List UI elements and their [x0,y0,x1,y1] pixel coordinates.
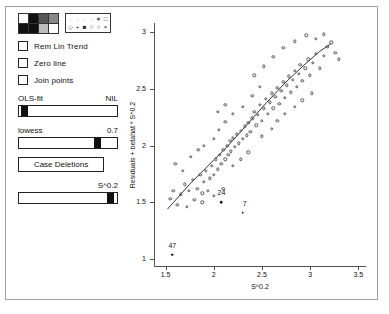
slider-value: NIL [106,94,118,103]
symbol-swatch-5[interactable]: □ [102,15,109,23]
plot-window: ····∗□◇+■○○× Rem Lin TrendZero lineJoin … [5,6,378,300]
case-deletions-button[interactable]: Case Deletions [18,157,104,172]
shade-swatch-0[interactable] [19,14,28,23]
checkbox-join-points[interactable]: Join points [18,75,118,85]
symbol-swatch-7[interactable]: + [74,23,81,31]
slider-2[interactable] [18,192,118,204]
shade-swatch-3[interactable] [49,14,58,23]
slider-value: 0.7 [107,126,118,135]
checkbox-zero-line[interactable]: Zero line [18,58,118,68]
symbol-swatch-6[interactable]: ◇ [67,23,74,31]
slider-0[interactable] [18,105,118,117]
shade-swatch-1[interactable] [29,14,38,23]
slider-1[interactable] [18,137,118,149]
shade-swatch-2[interactable] [39,14,48,23]
y-tick-label: 2.5 [124,85,146,92]
slider-header-0: OLS-fitNIL [18,94,118,103]
x-axis-label: S^0.2 [154,283,366,290]
checkbox-list: Rem Lin TrendZero lineJoin points [18,41,118,85]
control-panel: ····∗□◇+■○○× Rem Lin TrendZero lineJoin … [18,13,118,204]
plot-symbol-palette[interactable]: ····∗□◇+■○○× [65,13,111,33]
scatter-plot: 11.522.53 1.522.533.5 24747 Residuals + … [124,15,372,297]
x-tick-label: 3.5 [346,271,370,278]
x-tick-label: 1.5 [154,271,178,278]
shade-swatch-5[interactable] [29,24,38,33]
y-tick-label: 3 [124,28,146,35]
palette-row: ····∗□◇+■○○× [18,13,118,34]
checkbox-box-icon[interactable] [18,58,28,68]
shade-swatch-7[interactable] [49,24,58,33]
symbol-swatch-1[interactable]: · [74,15,81,23]
checkbox-box-icon[interactable] [18,75,28,85]
slider-thumb[interactable] [94,138,101,148]
symbol-swatch-3[interactable]: · [88,15,95,23]
x-tick-label: 2 [202,271,226,278]
plot-area: 11.522.53 1.522.533.5 24747 Residuals + … [154,23,366,267]
data-point-label-47: 47 [168,241,176,248]
checkbox-label: Zero line [34,59,66,68]
data-point-label-24: 24 [218,189,226,196]
slider-value: S^0.2 [98,181,118,190]
symbol-swatch-10[interactable]: ○ [95,23,102,31]
fill-shade-palette[interactable] [18,13,59,34]
checkbox-label: Rem Lin Trend [34,42,88,51]
slider-header-1: lowess0.7 [18,126,118,135]
fit-line [154,23,366,267]
slider-label: OLS-fit [18,94,43,103]
y-tick-label: 1.5 [124,198,146,205]
checkbox-box-icon[interactable] [18,41,28,51]
symbol-swatch-11[interactable]: × [102,23,109,31]
symbol-swatch-8[interactable]: ■ [81,23,88,31]
symbol-swatch-9[interactable]: ○ [88,23,95,31]
controls-stack: OLS-fitNILlowess0.7Case DeletionsS^0.2 [18,94,118,204]
x-tick-label: 3 [298,271,322,278]
slider-thumb[interactable] [107,193,114,203]
slider-thumb[interactable] [21,106,28,116]
y-tick-label: 1 [124,255,146,262]
data-point-label-7: 7 [243,199,247,206]
x-tick-label: 2.5 [250,271,274,278]
checkbox-label: Join points [34,76,73,85]
symbol-swatch-4[interactable]: ∗ [95,15,102,23]
slider-label: lowess [18,126,42,135]
slider-header-2: S^0.2 [18,181,118,190]
shade-swatch-4[interactable] [19,24,28,33]
symbol-swatch-0[interactable]: · [67,15,74,23]
y-axis-label: Residuals + betahat * S^0.2 [129,102,136,188]
labeled-data-point-47[interactable] [171,253,174,256]
shade-swatch-6[interactable] [39,24,48,33]
symbol-swatch-2[interactable]: · [81,15,88,23]
labeled-data-point-7[interactable] [241,211,244,214]
labeled-data-point-24[interactable] [220,201,223,204]
checkbox-rem-lin-trend[interactable]: Rem Lin Trend [18,41,118,51]
